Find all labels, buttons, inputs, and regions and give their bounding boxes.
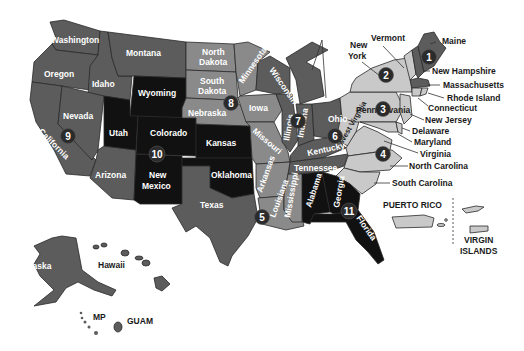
label-new-hampshire: New Hampshire bbox=[432, 66, 496, 76]
label-south-dakota-2: Dakota bbox=[198, 86, 227, 96]
label-texas: Texas bbox=[200, 200, 224, 210]
region-badge-11[interactable]: 11 bbox=[341, 203, 357, 219]
label-alaska: Alaska bbox=[24, 261, 52, 271]
label-idaho: Idaho bbox=[92, 79, 115, 89]
label-nebraska: Nebraska bbox=[188, 108, 227, 118]
label-north-carolina: North Carolina bbox=[409, 161, 468, 171]
label-massachusetts: Massachusetts bbox=[443, 80, 504, 90]
territory-puerto-rico[interactable] bbox=[392, 215, 447, 228]
region-badge-7[interactable]: 7 bbox=[291, 114, 306, 129]
label-north-dakota-2: Dakota bbox=[199, 57, 228, 67]
label-virginia: Virginia bbox=[420, 149, 451, 159]
label-puerto-rico: PUERTO RICO bbox=[383, 200, 442, 210]
label-new-york-2: York bbox=[348, 51, 367, 61]
region-badge-3[interactable]: 3 bbox=[376, 102, 391, 117]
svg-text:5: 5 bbox=[259, 212, 265, 223]
label-tennessee: Tennessee bbox=[294, 163, 338, 173]
label-utah: Utah bbox=[109, 128, 128, 138]
label-delaware: Delaware bbox=[412, 126, 450, 136]
label-new-jersey: New Jersey bbox=[425, 115, 472, 125]
label-kansas: Kansas bbox=[206, 138, 237, 148]
svg-text:4: 4 bbox=[380, 149, 386, 160]
label-oklahoma: Oklahoma bbox=[211, 170, 252, 180]
territory-virgin-islands[interactable] bbox=[462, 206, 488, 233]
svg-text:9: 9 bbox=[65, 131, 71, 142]
state-massachusetts[interactable] bbox=[410, 78, 430, 88]
region-badge-6[interactable]: 6 bbox=[328, 129, 343, 144]
label-vermont: Vermont bbox=[371, 33, 405, 43]
svg-text:11: 11 bbox=[344, 206, 355, 217]
region-badge-9[interactable]: 9 bbox=[61, 129, 76, 144]
label-north-dakota-1: North bbox=[202, 47, 225, 57]
label-south-dakota-1: South bbox=[200, 76, 224, 86]
label-iowa: Iowa bbox=[249, 103, 268, 113]
label-michigan: Michigan bbox=[323, 25, 360, 35]
label-maryland: Maryland bbox=[414, 137, 451, 147]
us-regions-map: Washington Oregon Idaho Montana Wyoming … bbox=[0, 0, 524, 351]
label-virgin-islands-1: VIRGIN bbox=[464, 235, 493, 245]
label-rhode-island: Rhode Island bbox=[447, 93, 500, 103]
label-maine: Maine bbox=[442, 36, 466, 46]
label-new-mexico-2: Mexico bbox=[142, 181, 171, 191]
region-badge-2[interactable]: 2 bbox=[379, 68, 394, 83]
label-hawaii: Hawaii bbox=[98, 260, 125, 270]
region-badge-5-pos[interactable]: 5 bbox=[255, 210, 270, 225]
label-arizona: Arizona bbox=[95, 170, 126, 180]
label-montana: Montana bbox=[126, 48, 161, 58]
label-mp: MP bbox=[93, 312, 106, 322]
region-badge-10[interactable]: 10 bbox=[149, 146, 165, 162]
svg-text:1: 1 bbox=[426, 52, 432, 63]
svg-text:7: 7 bbox=[295, 116, 301, 127]
label-new-mexico-1: New bbox=[149, 170, 167, 180]
svg-text:8: 8 bbox=[228, 98, 234, 109]
label-guam: GUAM bbox=[127, 316, 153, 326]
label-colorado: Colorado bbox=[150, 128, 187, 138]
label-washington: Washington bbox=[51, 35, 99, 45]
region-badge-1[interactable]: 1 bbox=[422, 50, 437, 65]
label-virgin-islands-2: ISLANDS bbox=[460, 246, 498, 256]
label-south-carolina: South Carolina bbox=[392, 178, 453, 188]
label-new-york-1: New bbox=[350, 40, 368, 50]
region-badge-8[interactable]: 8 bbox=[224, 96, 239, 111]
label-connecticut: Connecticut bbox=[428, 103, 477, 113]
label-oregon: Oregon bbox=[44, 69, 74, 79]
svg-text:6: 6 bbox=[332, 131, 338, 142]
territory-guam[interactable] bbox=[114, 322, 122, 332]
label-ohio: Ohio bbox=[328, 114, 347, 124]
svg-text:3: 3 bbox=[380, 104, 386, 115]
label-nevada: Nevada bbox=[63, 111, 94, 121]
svg-text:10: 10 bbox=[151, 149, 163, 160]
label-wyoming: Wyoming bbox=[138, 88, 176, 98]
svg-text:2: 2 bbox=[383, 70, 389, 81]
region-badge-4[interactable]: 4 bbox=[376, 147, 391, 162]
